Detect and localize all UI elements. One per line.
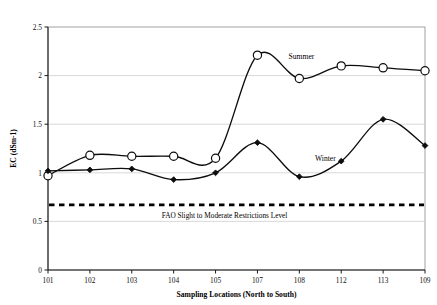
x-tick-label-103: 103 — [126, 276, 137, 285]
data-point-winter-105[interactable] — [213, 170, 219, 176]
data-point-summer-104[interactable] — [170, 152, 178, 160]
data-point-summer-108[interactable] — [295, 74, 303, 82]
data-point-summer-113[interactable] — [379, 64, 387, 72]
data-point-summer-105[interactable] — [211, 154, 219, 162]
x-tick-label-109: 109 — [419, 276, 430, 285]
data-point-summer-102[interactable] — [86, 151, 94, 159]
data-point-winter-104[interactable] — [171, 177, 177, 183]
series-line-summer — [48, 52, 425, 176]
x-tick-label-102: 102 — [84, 276, 95, 285]
data-point-summer-103[interactable] — [128, 152, 136, 160]
data-point-winter-103[interactable] — [129, 166, 135, 172]
ec-line-chart: 00.511.522.51011021031041051071081121131… — [0, 0, 437, 305]
y-tick-label-0.5: 0.5 — [33, 217, 43, 226]
x-tick-label-101: 101 — [42, 276, 53, 285]
data-point-summer-107[interactable] — [253, 51, 261, 59]
x-axis-title: Sampling Locations (North to South) — [177, 290, 297, 299]
data-point-winter-108[interactable] — [296, 174, 302, 180]
y-tick-label-2.5: 2.5 — [33, 23, 43, 32]
fao-threshold-label: FAO Slight to Moderate Restrictions Leve… — [162, 211, 288, 220]
series-label-winter: Winter — [315, 154, 336, 163]
x-tick-label-108: 108 — [294, 276, 305, 285]
chart-container: 00.511.522.51011021031041051071081121131… — [0, 0, 437, 305]
x-tick-label-104: 104 — [168, 276, 179, 285]
x-tick-label-112: 112 — [336, 276, 347, 285]
y-axis-title: EC (dSm-1) — [9, 129, 18, 168]
data-point-winter-107[interactable] — [255, 140, 261, 146]
y-tick-label-0: 0 — [38, 266, 42, 275]
data-point-summer-109[interactable] — [421, 67, 429, 75]
plot-frame — [48, 27, 425, 270]
series-line-winter — [48, 119, 425, 180]
y-tick-label-1: 1 — [38, 169, 42, 178]
data-point-winter-102[interactable] — [87, 167, 93, 173]
x-tick-label-107: 107 — [252, 276, 263, 285]
series-label-summer: Summer — [289, 52, 315, 61]
y-tick-label-1.5: 1.5 — [33, 120, 43, 129]
data-point-summer-112[interactable] — [337, 62, 345, 70]
x-tick-label-105: 105 — [210, 276, 221, 285]
data-point-winter-113[interactable] — [380, 116, 386, 122]
y-tick-label-2: 2 — [38, 71, 42, 80]
x-tick-label-113: 113 — [378, 276, 389, 285]
